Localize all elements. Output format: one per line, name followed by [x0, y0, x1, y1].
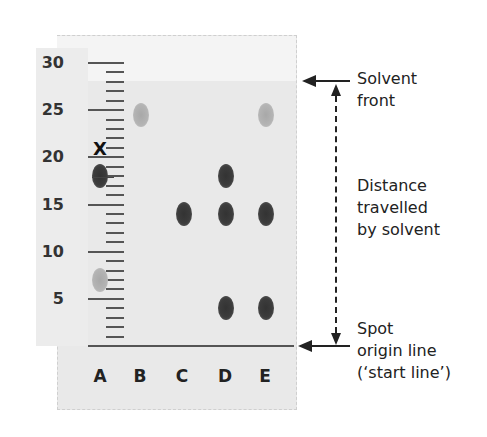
ruler-minor-tick	[106, 147, 124, 149]
ruler-minor-tick	[106, 260, 124, 262]
ruler-minor-tick	[106, 100, 124, 102]
spot-lane-a	[92, 268, 108, 292]
distance-travelled-label: Distance travelled by solvent	[357, 175, 440, 241]
paper-above-solvent-front	[57, 36, 296, 81]
lane-label-e: E	[255, 366, 275, 386]
ruler-minor-tick	[106, 241, 124, 243]
ruler-major-tick	[88, 109, 124, 111]
ruler-label: 15	[14, 195, 64, 214]
spot-measure-line	[92, 177, 114, 178]
ruler-label: 20	[14, 147, 64, 166]
unknown-sample-marker: X	[93, 138, 107, 159]
distance-arrow-down-icon	[331, 333, 341, 345]
ruler-label: 30	[14, 53, 64, 72]
ruler-minor-tick	[106, 270, 124, 272]
ruler-minor-tick	[106, 166, 124, 168]
ruler-label: 25	[14, 100, 64, 119]
solvent-front-arrow-line	[314, 80, 350, 82]
spot-lane-d	[218, 202, 234, 226]
ruler-minor-tick	[106, 222, 124, 224]
lane-label-a: A	[90, 366, 110, 386]
ruler-minor-tick	[106, 232, 124, 234]
ruler-minor-tick	[106, 128, 124, 130]
ruler-major-tick	[88, 251, 124, 253]
spot-lane-e	[258, 202, 274, 226]
spot-lane-b	[133, 103, 149, 127]
lane-label-c: C	[172, 366, 192, 386]
ruler-minor-tick	[106, 71, 124, 73]
distance-dashed-line	[335, 96, 337, 333]
ruler-minor-tick	[106, 137, 124, 139]
ruler: 30252015105	[36, 48, 88, 346]
ruler-minor-tick	[106, 213, 124, 215]
origin-line-label: Spot origin line (‘start line’)	[357, 318, 451, 384]
spot-lane-d	[218, 164, 234, 188]
ruler-minor-tick	[106, 307, 124, 309]
spot-lane-e	[258, 103, 274, 127]
ruler-minor-tick	[106, 279, 124, 281]
ruler-major-tick	[88, 62, 124, 64]
ruler-minor-tick	[106, 317, 124, 319]
origin-line	[88, 345, 294, 347]
ruler-label: 10	[14, 242, 64, 261]
ruler-minor-tick	[106, 90, 124, 92]
ruler-label: 5	[14, 289, 64, 308]
distance-arrow-up-icon	[331, 84, 341, 96]
spot-lane-c	[176, 202, 192, 226]
ruler-minor-tick	[106, 194, 124, 196]
ruler-minor-tick	[106, 185, 124, 187]
lane-label-b: B	[130, 366, 150, 386]
ruler-minor-tick	[106, 288, 124, 290]
ruler-minor-tick	[106, 326, 124, 328]
ruler-minor-tick	[106, 336, 124, 338]
solvent-front-label: Solvent front	[357, 68, 417, 112]
origin-arrow-line	[310, 345, 350, 347]
ruler-major-tick	[88, 298, 124, 300]
ruler-major-tick	[88, 204, 124, 206]
ruler-minor-tick	[106, 119, 124, 121]
ruler-minor-tick	[106, 81, 124, 83]
lane-label-d: D	[215, 366, 235, 386]
